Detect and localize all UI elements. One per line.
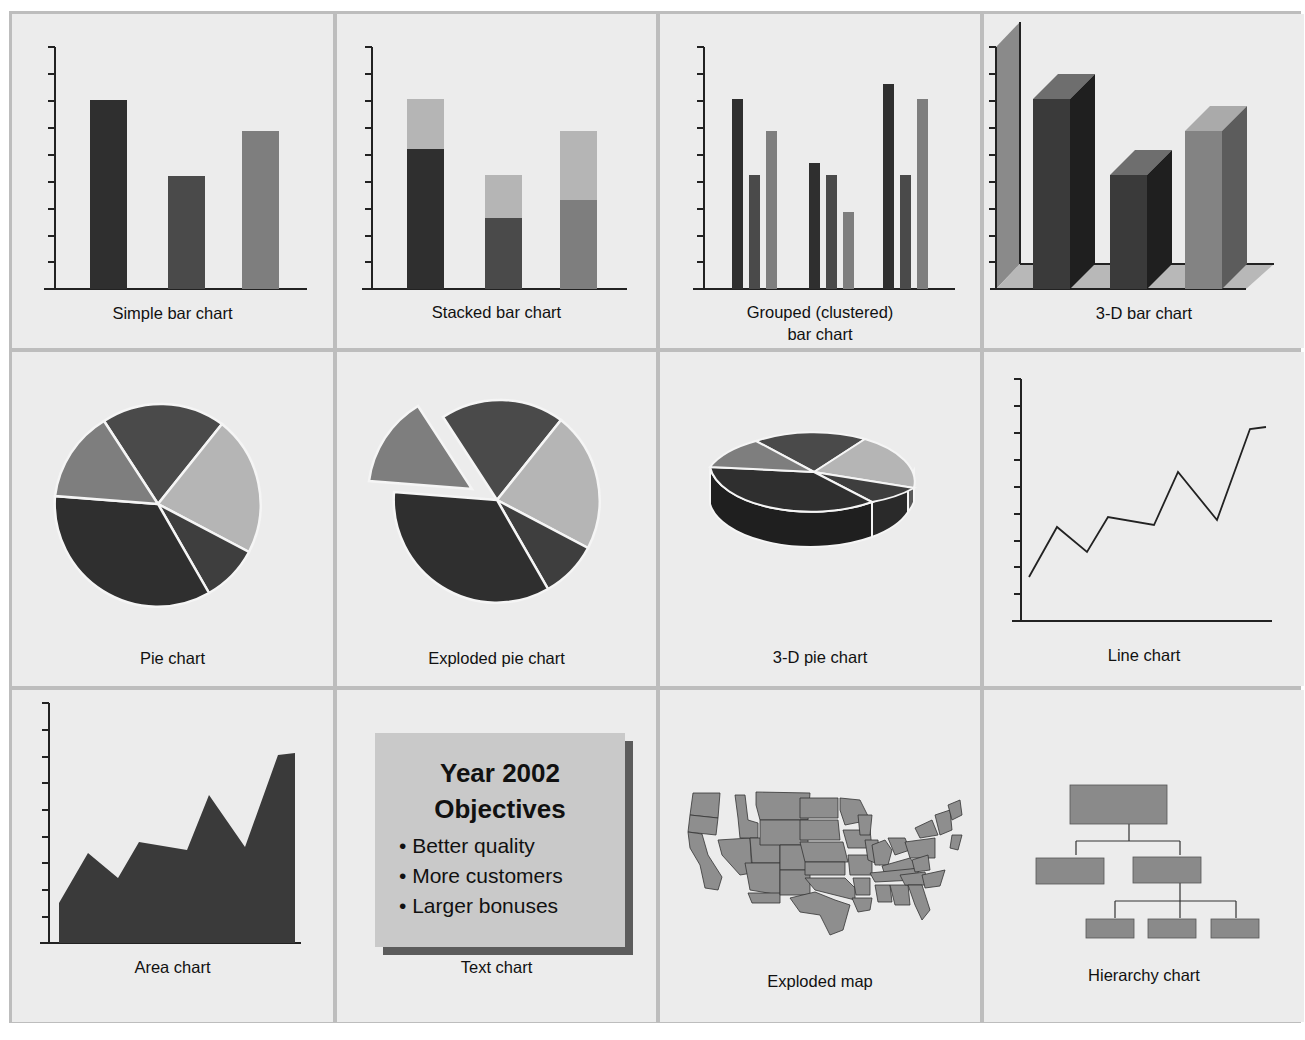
text-chart-card: Year 2002 Objectives Better quality More… bbox=[375, 733, 625, 947]
caption: Stacked bar chart bbox=[337, 301, 656, 323]
grouped-bar-chart bbox=[660, 14, 980, 348]
panel-3d-bar: 3-D bar chart bbox=[984, 14, 1304, 348]
caption: Exploded map bbox=[660, 970, 980, 992]
panel-exploded-pie: Exploded pie chart bbox=[337, 352, 656, 686]
caption: Exploded pie chart bbox=[337, 647, 656, 669]
caption: Text chart bbox=[337, 956, 656, 978]
3d-bar-chart bbox=[984, 14, 1304, 348]
exploded-pie-chart bbox=[337, 352, 656, 686]
caption: Hierarchy chart bbox=[984, 964, 1304, 986]
panel-area: Area chart bbox=[12, 690, 333, 1022]
list-item: Larger bonuses bbox=[399, 891, 563, 921]
text-chart-title: Year 2002 Objectives bbox=[375, 755, 625, 827]
caption: 3-D bar chart bbox=[984, 302, 1304, 324]
panel-3d-pie: 3-D pie chart bbox=[660, 352, 980, 686]
caption: Line chart bbox=[984, 644, 1304, 666]
panel-text: Year 2002 Objectives Better quality More… bbox=[337, 690, 656, 1022]
list-item: Better quality bbox=[399, 831, 563, 861]
caption: Simple bar chart bbox=[12, 302, 333, 324]
simple-bar-chart bbox=[12, 14, 333, 348]
caption: Area chart bbox=[12, 956, 333, 978]
3d-pie-chart bbox=[660, 352, 980, 686]
caption: Pie chart bbox=[12, 647, 333, 669]
chart-types-grid: Simple bar chart Stacked bar chart bbox=[9, 11, 1301, 1023]
line-chart bbox=[984, 352, 1304, 686]
panel-line: Line chart bbox=[984, 352, 1304, 686]
caption-line2: bar chart bbox=[660, 323, 980, 345]
caption-line1: Grouped (clustered) bbox=[660, 301, 980, 323]
pie-chart bbox=[12, 352, 333, 686]
panel-hierarchy: Hierarchy chart bbox=[984, 690, 1304, 1022]
panel-simple-bar: Simple bar chart bbox=[12, 14, 333, 348]
list-item: More customers bbox=[399, 861, 563, 891]
stacked-bar-chart bbox=[337, 14, 656, 348]
panel-exploded-map: Exploded map bbox=[660, 690, 980, 1022]
panel-grouped-bar: Grouped (clustered) bar chart bbox=[660, 14, 980, 348]
caption: 3-D pie chart bbox=[660, 646, 980, 668]
hierarchy-node-root bbox=[1070, 785, 1167, 824]
panel-stacked-bar: Stacked bar chart bbox=[337, 14, 656, 348]
objectives-list: Better quality More customers Larger bon… bbox=[399, 831, 563, 921]
panel-pie: Pie chart bbox=[12, 352, 333, 686]
